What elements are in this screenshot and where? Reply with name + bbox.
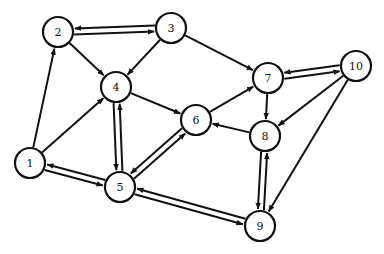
- edge-6-to-5: [131, 128, 182, 173]
- node-3: 3: [156, 13, 186, 43]
- node-4: 4: [101, 72, 131, 102]
- node-6: 6: [181, 105, 211, 135]
- edge-4-to-5: [114, 103, 117, 170]
- node-5: 5: [105, 172, 135, 202]
- node-label: 1: [27, 157, 34, 170]
- node-label: 4: [113, 81, 120, 94]
- edge-4-to-6: [131, 93, 181, 113]
- node-label: 8: [262, 130, 269, 143]
- node-7: 7: [253, 63, 283, 93]
- edge-5-to-4: [120, 104, 123, 171]
- node-1: 1: [15, 148, 45, 178]
- edge-9-to-5: [137, 189, 245, 219]
- node-2: 2: [43, 17, 73, 47]
- edge-2-to-3: [74, 32, 154, 35]
- node-label: 9: [257, 220, 264, 233]
- edge-5-to-6: [134, 134, 185, 179]
- nodes-layer: 12345678910: [15, 13, 371, 241]
- graph-canvas: 12345678910: [0, 0, 384, 254]
- edge-2-to-4: [70, 43, 104, 75]
- node-label: 6: [193, 114, 200, 127]
- edge-1-to-2: [33, 49, 54, 148]
- edge-1-to-4: [42, 98, 103, 152]
- edge-7-to-8: [266, 94, 267, 119]
- node-8: 8: [250, 121, 280, 151]
- node-label: 10: [349, 60, 363, 73]
- directed-graph-diagram: 12345678910: [0, 0, 384, 254]
- node-label: 5: [117, 181, 124, 194]
- edge-3-to-2: [75, 26, 155, 29]
- edge-3-to-4: [128, 40, 161, 75]
- node-label: 3: [168, 22, 175, 35]
- edge-3-to-7: [185, 35, 253, 70]
- node-9: 9: [245, 211, 275, 241]
- edge-9-to-8: [264, 153, 267, 210]
- node-label: 7: [265, 72, 272, 85]
- node-label: 2: [55, 26, 62, 39]
- edge-5-to-9: [135, 194, 243, 224]
- edge-10-to-9: [269, 80, 348, 212]
- edge-10-to-8: [279, 76, 344, 126]
- edge-8-to-9: [258, 152, 261, 209]
- node-10: 10: [341, 51, 371, 81]
- edge-8-to-6: [213, 124, 250, 133]
- edge-6-to-7: [210, 87, 254, 112]
